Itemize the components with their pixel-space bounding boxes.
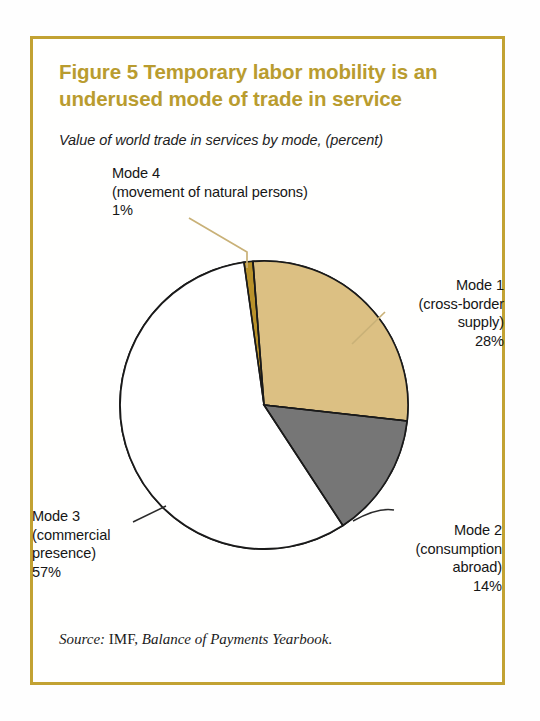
pie-label-mode3: Mode 3 (commercial presence) 57% xyxy=(32,507,110,582)
source-publication: Balance of Payments Yearbook xyxy=(142,631,329,647)
source-period: . xyxy=(328,631,332,647)
pie-label-mode4: Mode 4 (movement of natural persons) 1% xyxy=(112,164,308,220)
source-organization: IMF, xyxy=(105,631,142,647)
figure-source: Source: IMF, Balance of Payments Yearboo… xyxy=(59,631,479,648)
pie-label-mode2: Mode 2 (consumption abroad) 14% xyxy=(330,521,502,596)
source-prefix: Source: xyxy=(59,631,105,647)
figure-title: Figure 5 Temporary labor mobility is an … xyxy=(59,59,469,112)
figure-subtitle: Value of world trade in services by mode… xyxy=(59,132,479,148)
pie-label-mode1: Mode 1 (cross-border supply) 28% xyxy=(336,276,504,351)
